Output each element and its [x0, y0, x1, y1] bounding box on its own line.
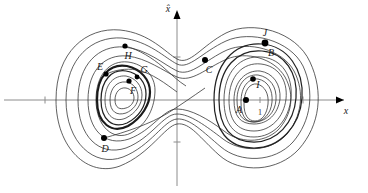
- point-dot-I[interactable]: [250, 76, 256, 82]
- point-label-G: G: [140, 64, 147, 75]
- point-label-E: E: [96, 61, 103, 72]
- point-label-C: C: [206, 64, 213, 75]
- y-axis-arrowhead: [174, 10, 181, 19]
- phase-portrait-figure: A B C D E F G H I J x x̂ 1: [0, 0, 368, 193]
- point-dot-D[interactable]: [101, 135, 107, 141]
- point-label-H: H: [123, 50, 132, 61]
- orbit-left-3: [105, 76, 142, 120]
- left-lobe-orbits: [96, 46, 205, 138]
- point-label-J: J: [263, 27, 268, 38]
- orbit-right-1: [214, 44, 302, 148]
- point-dot-H[interactable]: [122, 43, 127, 48]
- phase-portrait-canvas: A B C D E F G H I J x x̂ 1: [0, 0, 368, 193]
- point-dot-A[interactable]: [243, 97, 249, 103]
- point-label-D: D: [100, 143, 109, 154]
- orbit-right-2: [219, 51, 296, 142]
- point-label-F: F: [129, 85, 137, 96]
- point-label-A: A: [235, 104, 243, 115]
- point-dot-E[interactable]: [103, 71, 108, 76]
- point-dot-F[interactable]: [126, 78, 131, 83]
- right-lobe-orbits: [214, 44, 302, 148]
- point-dot-G[interactable]: [135, 75, 140, 80]
- point-label-I: I: [255, 79, 260, 90]
- x-tick-label-one: 1: [258, 107, 263, 117]
- x-axis-arrowhead: [336, 97, 344, 104]
- x-axis-label: x: [343, 105, 349, 116]
- point-dot-C[interactable]: [202, 57, 208, 63]
- y-axis-label: x̂: [165, 3, 171, 14]
- axes-group: [4, 10, 344, 186]
- point-label-B: B: [268, 47, 274, 58]
- point-dot-B[interactable]: [262, 40, 269, 47]
